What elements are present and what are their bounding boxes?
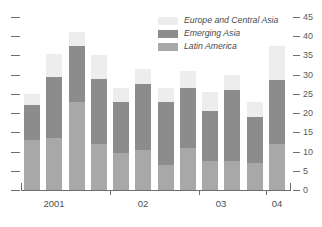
bar-segment-emerging-asia <box>180 88 196 148</box>
bar-segment-europe-and-central-asia <box>69 32 85 45</box>
plot-area <box>21 17 288 190</box>
bar-segment-emerging-asia <box>247 117 263 163</box>
bar-segment-latin-america <box>180 148 196 190</box>
bar-segment-europe-and-central-asia <box>158 88 174 101</box>
bar-04Q1[interactable] <box>269 46 285 190</box>
bar-segment-latin-america <box>269 144 285 190</box>
bar-segment-europe-and-central-asia <box>24 94 40 106</box>
y-tick-right-35 <box>293 55 300 56</box>
x-tick-04 <box>266 190 267 195</box>
y-axis-label-45: 45 <box>303 13 313 22</box>
bar-segment-latin-america <box>247 163 263 190</box>
bar-03Q2[interactable] <box>224 75 240 190</box>
y-tick-left-20 <box>11 113 20 114</box>
bar-segment-latin-america <box>113 153 129 190</box>
chart-container: Europe and Central Asia Emerging Asia La… <box>0 0 322 227</box>
x-axis-line <box>21 190 291 191</box>
bar-02Q4[interactable] <box>180 71 196 190</box>
bar-segment-europe-and-central-asia <box>113 88 129 101</box>
bar-segment-europe-and-central-asia <box>224 75 240 90</box>
y-axis-label-20: 20 <box>303 109 313 118</box>
y-axis-label-5: 5 <box>303 167 308 176</box>
bar-2001Q3[interactable] <box>69 32 85 190</box>
bar-02Q1[interactable] <box>113 88 129 190</box>
y-tick-left-30 <box>11 75 20 76</box>
y-axis-left-spine <box>21 183 22 191</box>
bar-2001Q2[interactable] <box>46 54 62 190</box>
bar-segment-emerging-asia <box>224 90 240 161</box>
bar-segment-europe-and-central-asia <box>269 46 285 81</box>
bar-02Q3[interactable] <box>158 88 174 190</box>
y-tick-right-25 <box>293 94 300 95</box>
x-axis-label-2001: 2001 <box>43 198 64 209</box>
y-axis-right-spine <box>290 183 291 191</box>
bar-segment-emerging-asia <box>113 102 129 154</box>
x-tick-02 <box>110 190 111 195</box>
bar-segment-emerging-asia <box>24 105 40 140</box>
y-tick-left-45 <box>11 17 20 18</box>
bar-segment-emerging-asia <box>69 46 85 102</box>
y-tick-right-20 <box>293 113 300 114</box>
y-axis-label-30: 30 <box>303 71 313 80</box>
y-axis-label-25: 25 <box>303 90 313 99</box>
y-tick-right-45 <box>293 17 300 18</box>
y-tick-left-15 <box>11 132 20 133</box>
bar-segment-emerging-asia <box>202 111 218 161</box>
bar-segment-latin-america <box>158 165 174 190</box>
bar-segment-europe-and-central-asia <box>91 55 107 78</box>
bar-2001Q4[interactable] <box>91 55 107 190</box>
bar-segment-europe-and-central-asia <box>247 102 263 117</box>
y-axis-label-10: 10 <box>303 148 313 157</box>
y-axis-label-40: 40 <box>303 32 313 41</box>
bar-segment-europe-and-central-asia <box>202 92 218 111</box>
bar-segment-europe-and-central-asia <box>135 69 151 84</box>
y-tick-right-5 <box>293 171 300 172</box>
bar-segment-emerging-asia <box>135 84 151 149</box>
x-axis-label-04: 04 <box>272 198 283 209</box>
bar-segment-latin-america <box>69 102 85 190</box>
bar-segment-latin-america <box>24 140 40 190</box>
bar-segment-latin-america <box>91 144 107 190</box>
bar-segment-latin-america <box>135 150 151 190</box>
y-tick-left-40 <box>11 36 20 37</box>
y-tick-right-15 <box>293 132 300 133</box>
y-axis-label-0: 0 <box>303 186 308 195</box>
y-axis-label-15: 15 <box>303 128 313 137</box>
y-tick-left-5 <box>11 171 20 172</box>
bar-2001Q1[interactable] <box>24 94 40 190</box>
bar-segment-latin-america <box>202 161 218 190</box>
y-tick-left-25 <box>11 94 20 95</box>
y-axis-label-35: 35 <box>303 51 313 60</box>
bar-02Q2[interactable] <box>135 69 151 190</box>
x-tick-03 <box>199 190 200 195</box>
bar-03Q3[interactable] <box>247 102 263 190</box>
bar-segment-latin-america <box>46 138 62 190</box>
y-tick-left-0 <box>11 190 20 191</box>
x-axis-label-03: 03 <box>216 198 227 209</box>
y-tick-right-40 <box>293 36 300 37</box>
y-tick-right-0 <box>293 190 300 191</box>
y-tick-right-10 <box>293 152 300 153</box>
y-tick-left-35 <box>11 55 20 56</box>
bar-03Q1[interactable] <box>202 92 218 190</box>
bar-segment-emerging-asia <box>46 77 62 139</box>
bar-segment-emerging-asia <box>91 79 107 144</box>
x-axis-label-02: 02 <box>138 198 149 209</box>
bar-segment-emerging-asia <box>158 102 174 165</box>
bar-segment-europe-and-central-asia <box>46 54 62 77</box>
y-tick-left-10 <box>11 152 20 153</box>
bar-segment-latin-america <box>224 161 240 190</box>
y-tick-right-30 <box>293 75 300 76</box>
bar-segment-emerging-asia <box>269 80 285 143</box>
bar-segment-europe-and-central-asia <box>180 71 196 88</box>
